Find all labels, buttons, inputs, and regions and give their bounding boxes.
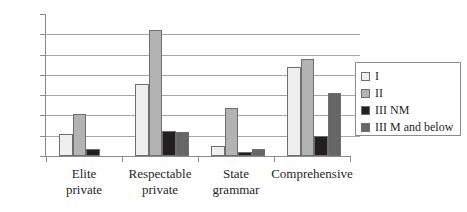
y-tick-mark: [40, 136, 45, 137]
bar-chart: 010203040506070 EliteprivateRespectablep…: [0, 0, 467, 212]
legend-swatch-icon: [361, 123, 370, 132]
bar: [149, 30, 163, 156]
bar: [238, 152, 252, 156]
legend-item: I: [361, 68, 460, 84]
y-tick-mark: [40, 95, 45, 96]
bar: [314, 136, 328, 156]
bar: [135, 84, 149, 156]
y-tick-mark: [40, 156, 45, 157]
legend-item: III M and below: [361, 119, 460, 135]
legend-label: III NM: [375, 103, 409, 117]
bar: [162, 131, 176, 156]
x-tick-mark: [350, 157, 351, 162]
legend-label: II: [375, 86, 383, 100]
y-tick-mark: [40, 75, 45, 76]
legend-label: III M and below: [375, 120, 453, 134]
x-tick-mark: [46, 157, 47, 162]
bar: [287, 67, 301, 156]
bar: [73, 114, 87, 156]
bar: [252, 149, 266, 156]
legend: IIIIII NMIII M and below: [355, 62, 461, 136]
category-label: Comprehensive: [260, 166, 364, 182]
category-label-line2: grammar: [184, 182, 288, 198]
legend-label: I: [375, 69, 379, 83]
bar: [59, 134, 73, 156]
legend-swatch-icon: [361, 89, 370, 98]
bar: [301, 59, 315, 156]
y-tick-mark: [40, 115, 45, 116]
bar: [86, 149, 100, 156]
bar: [176, 132, 190, 156]
legend-swatch-icon: [361, 72, 370, 81]
legend-item: III NM: [361, 102, 460, 118]
y-tick-mark: [40, 55, 45, 56]
category-label-line1: Comprehensive: [260, 166, 364, 182]
y-tick-mark: [40, 14, 45, 15]
plot-area: [46, 14, 350, 156]
x-tick-mark: [274, 157, 275, 162]
bar: [211, 146, 225, 156]
legend-item: II: [361, 85, 460, 101]
y-tick-mark: [40, 34, 45, 35]
bar: [328, 93, 342, 156]
legend-swatch-icon: [361, 106, 370, 115]
x-tick-mark: [198, 157, 199, 162]
x-tick-mark: [122, 157, 123, 162]
bar: [225, 108, 239, 156]
